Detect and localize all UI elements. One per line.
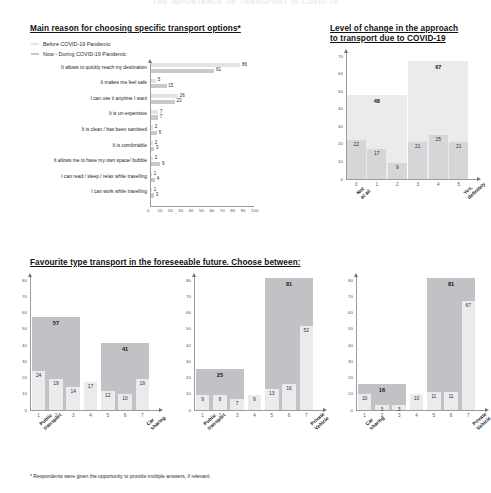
- reason-bar: 7: [151, 110, 158, 114]
- reason-bar: 6: [151, 131, 157, 135]
- x-tick-label: 1: [372, 182, 382, 187]
- y-tick-label: 0: [341, 408, 353, 413]
- reason-bar-value: 23: [177, 98, 182, 103]
- y-tick-label: 70: [15, 294, 27, 299]
- y-tick-label: 40: [15, 343, 27, 348]
- y-tick-label: 60: [15, 310, 27, 315]
- bar-value: 11: [427, 394, 440, 399]
- x-axis-arrow-icon: [323, 408, 327, 412]
- y-tick-label: 40: [341, 343, 353, 348]
- reasons-chart: Main reason for choosing specific transp…: [0, 24, 270, 236]
- level-change-title-line1: Level of change in the approach: [330, 24, 458, 35]
- y-tick-label: 10: [331, 159, 343, 164]
- group-total-label: 57: [32, 320, 80, 326]
- reason-row: It allows to quickly reach my destinatio…: [0, 62, 270, 78]
- reason-bar-value: 7: [160, 109, 163, 114]
- x-tick-label: 2: [392, 182, 402, 187]
- bar: [300, 326, 313, 411]
- y-tick-label: 60: [331, 71, 343, 76]
- x-tick-label: 90: [241, 208, 246, 213]
- x-tick-label: 4: [412, 413, 422, 418]
- bar-value: 7: [230, 401, 243, 406]
- reason-bar: 9: [151, 162, 160, 166]
- bar-value: 9: [196, 397, 209, 402]
- bar-value: 10: [410, 396, 423, 401]
- reasons-x-ticks: 0102030405060708090100: [150, 208, 260, 216]
- legend-item-now: Now - During COVID-19 Pandemic: [31, 49, 126, 58]
- bar-value: 16: [282, 386, 295, 391]
- bar-value: 3: [392, 407, 405, 412]
- x-tick-label: 10: [157, 208, 162, 213]
- infographic-page: THE IMPORTANCE OF TRANSPORT IN COVID-19 …: [0, 0, 491, 493]
- reason-bar-value: 1: [154, 171, 157, 176]
- reason-row: It is comfortable23: [0, 140, 270, 156]
- x-tick-label: 7: [301, 413, 311, 418]
- axis-end-label: PrivateVehicle: [471, 410, 491, 431]
- reason-row: It allows me to have my own space/ bubbl…: [0, 156, 270, 172]
- y-tick-label: 50: [331, 89, 343, 94]
- reasons-plot: It allows to quickly reach my destinatio…: [0, 62, 270, 224]
- bar: [462, 301, 475, 410]
- group-total-label: 67: [408, 64, 468, 70]
- x-tick-label: 6: [284, 413, 294, 418]
- y-tick-label: 50: [15, 326, 27, 331]
- group-total-label: 81: [265, 281, 313, 287]
- reasons-title: Main reason for choosing specific transp…: [30, 24, 241, 35]
- legend-item-before: Before COVID-19 Pandemic: [31, 39, 126, 48]
- x-tick-label: 40: [189, 208, 194, 213]
- x-tick-label: 3: [413, 182, 423, 187]
- y-tick-label: 0: [179, 408, 191, 413]
- reason-row: I can use it anytime I want2623: [0, 93, 270, 109]
- bar-value: 52: [300, 328, 313, 333]
- x-tick-label: 4: [86, 413, 96, 418]
- reason-bar: 15: [151, 84, 167, 88]
- y-tick-label: 20: [341, 375, 353, 380]
- x-tick-label: 0: [147, 208, 149, 213]
- reason-label: It makes me feel safe: [0, 80, 147, 86]
- reason-bar-value: 7: [160, 114, 163, 119]
- reason-bar-value: 4: [157, 176, 160, 181]
- reason-bar: 1: [151, 172, 152, 176]
- reason-bar-value: 5: [158, 77, 161, 82]
- reason-row: I can read / sleep / relax while travell…: [0, 171, 270, 187]
- y-tick-label: 0: [331, 177, 343, 182]
- reason-bars: 14: [151, 172, 155, 183]
- level-change-title-line2: to transport due to COVID-19: [330, 34, 446, 45]
- bar-value: 19: [136, 381, 149, 386]
- reason-bar-value: 6: [159, 130, 162, 135]
- level-change-plot: 010203040506070486722017192213254215Nota…: [320, 50, 491, 235]
- y-axis-arrow-icon: [344, 49, 348, 53]
- bar-value: 9: [388, 165, 407, 170]
- bar-value: 21: [408, 144, 427, 149]
- y-tick-label: 50: [179, 326, 191, 331]
- reason-bars: 26: [151, 125, 157, 136]
- bar-value: 11: [444, 394, 457, 399]
- y-tick-label: 40: [179, 343, 191, 348]
- bar-value: 9: [248, 397, 261, 402]
- bar-value: 67: [462, 303, 475, 308]
- reason-label: It is clean / has been sanitised: [0, 127, 147, 133]
- x-tick-label: 100: [251, 208, 258, 213]
- x-tick-label: 5: [429, 413, 439, 418]
- reason-row: It makes me feel safe515: [0, 78, 270, 94]
- bar-value: 12: [101, 393, 114, 398]
- y-tick-label: 70: [331, 54, 343, 59]
- bar-value: 19: [49, 381, 62, 386]
- x-tick-label: 5: [454, 182, 464, 187]
- x-tick-label: 70: [220, 208, 225, 213]
- y-tick-label: 10: [179, 391, 191, 396]
- y-tick-label: 30: [341, 359, 353, 364]
- reason-bar: 2: [151, 157, 153, 161]
- reason-bar-value: 61: [216, 67, 221, 72]
- reason-bar: 1: [151, 188, 152, 192]
- y-axis-arrow-icon: [354, 273, 358, 277]
- bar-value: 24: [32, 373, 45, 378]
- y-tick-label: 0: [15, 408, 27, 413]
- y-tick-label: 30: [331, 124, 343, 129]
- x-tick-label: 6: [446, 413, 456, 418]
- reason-bar: 61: [151, 69, 214, 73]
- reason-bars: 23: [151, 141, 154, 152]
- footnote: * Respondents were given the opportunity…: [30, 473, 211, 479]
- x-tick-label: 5: [267, 413, 277, 418]
- bar-value: 17: [84, 384, 97, 389]
